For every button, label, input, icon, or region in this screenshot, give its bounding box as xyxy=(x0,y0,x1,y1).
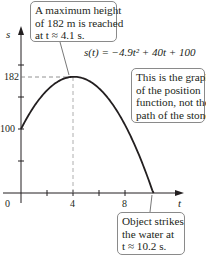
tick-label-100: 100 xyxy=(0,123,15,134)
strike-water-callout: Object strikes the water at t ≈ 10.2 s. xyxy=(117,212,185,255)
t-axis-label: t xyxy=(178,197,182,209)
equation-label: s(t) = −4.9t² + 40t + 100 xyxy=(84,46,196,59)
tick-label-182: 182 xyxy=(4,71,19,82)
tick-label-8: 8 xyxy=(122,198,127,209)
s-axis-arrow-icon xyxy=(18,26,24,35)
max-height-callout: A maximum height of 182 m is reached at … xyxy=(30,1,117,42)
position-function-note: This is the graph of the position functi… xyxy=(131,68,205,123)
tick-label-0: 0 xyxy=(5,198,10,209)
strike-leader-line xyxy=(150,195,152,212)
max-leader-line xyxy=(60,42,69,75)
s-axis-label: s xyxy=(6,28,10,40)
tick-label-4: 4 xyxy=(70,198,75,209)
t-axis-arrow-icon xyxy=(175,190,184,196)
